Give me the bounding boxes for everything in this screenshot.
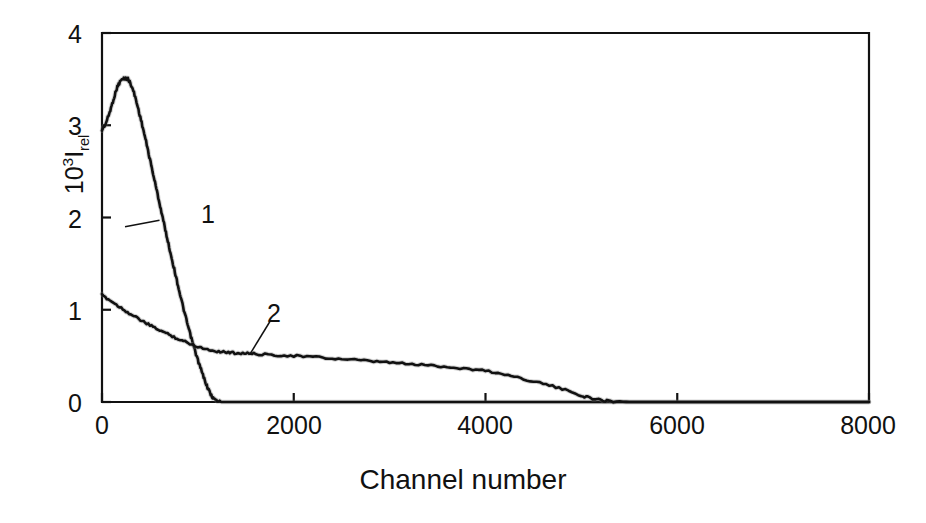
y-axis-title-symbol: I xyxy=(60,151,88,158)
y-tick-label-2: 2 xyxy=(42,205,82,234)
y-axis-title-base: 10 xyxy=(60,166,88,194)
axis-tick-marks xyxy=(102,33,869,402)
chart-plot-area xyxy=(0,0,926,523)
x-tick-label-6000: 6000 xyxy=(622,411,732,440)
x-tick-label-8000: 8000 xyxy=(813,411,923,440)
leader-line-1 xyxy=(125,220,160,226)
curve-2 xyxy=(102,294,869,402)
x-tick-label-2000: 2000 xyxy=(239,411,349,440)
figure-container: 103Irel Channel number 4 3 2 1 0 0 2000 … xyxy=(0,0,926,523)
x-axis-title: Channel number xyxy=(0,464,926,496)
data-curves xyxy=(102,78,869,403)
y-tick-label-3: 3 xyxy=(42,112,82,141)
y-tick-label-4: 4 xyxy=(42,20,82,49)
y-axis-title-exponent: 3 xyxy=(59,158,76,167)
curve-label-2: 2 xyxy=(267,299,281,328)
curve-label-1: 1 xyxy=(201,200,215,229)
y-tick-label-1: 1 xyxy=(42,297,82,326)
x-tick-label-0: 0 xyxy=(47,411,157,440)
label-leader-lines xyxy=(125,220,270,353)
axes-frame xyxy=(102,33,869,402)
x-tick-label-4000: 4000 xyxy=(430,411,540,440)
